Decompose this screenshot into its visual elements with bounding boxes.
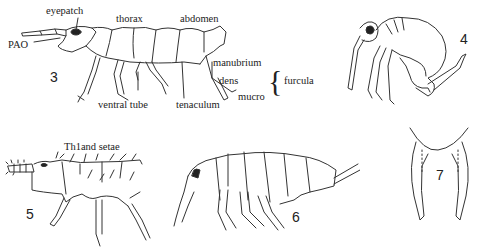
label-thorax: thorax [116, 14, 143, 25]
panel-number-4: 4 [460, 32, 468, 46]
panel-number-7: 7 [436, 168, 444, 182]
label-th1-setae: Th1and setae [64, 142, 120, 153]
label-tenaculum: tenaculum [176, 100, 220, 111]
label-furcula: furcula [284, 76, 314, 87]
label-eyepatch: eyepatch [46, 6, 83, 17]
label-ventral-tube: ventral tube [98, 100, 148, 111]
panel-5-drawing [0, 150, 160, 250]
label-pao: PAO [8, 40, 28, 51]
panel-number-3: 3 [50, 70, 58, 84]
label-mucro: mucro [238, 92, 265, 103]
label-manubrium: manubrium [213, 58, 261, 69]
panel-number-6: 6 [292, 210, 300, 224]
collembola-morphology-figure: eyepatch thorax abdomen PAO manubrium de… [0, 0, 488, 250]
panel-number-5: 5 [26, 207, 34, 221]
label-abdomen: abdomen [180, 14, 219, 25]
label-dens: dens [219, 76, 238, 87]
panel-6-drawing [160, 130, 360, 250]
panel-4-drawing [330, 0, 488, 120]
furcula-brace: { [268, 66, 282, 96]
